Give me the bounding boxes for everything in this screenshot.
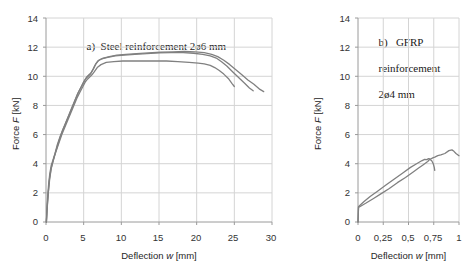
panel-a-steel-reinforcement: Force F [kN] Deflection w [mm] a) Steel … [0, 0, 300, 275]
figure-two-panel-force-deflection: Force F [kN] Deflection w [mm] a) Steel … [0, 0, 469, 275]
panel-b-gfrp-reinforcement: Force F [kN] Deflection w [mm] b) GFRP r… [300, 0, 469, 275]
panel-b-plot-area [300, 0, 469, 275]
series-line-specimen-2 [46, 53, 253, 222]
series-line-specimen-3 [46, 61, 234, 222]
series-line-specimen-2 [358, 159, 435, 222]
series-line-specimen-1 [46, 52, 263, 222]
panel-a-plot-area [0, 0, 300, 275]
